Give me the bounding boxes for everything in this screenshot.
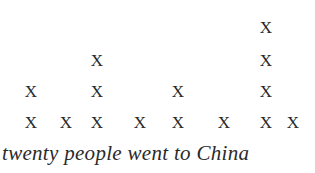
dot-plot: XXXXXXXXXXXXXXX <box>0 0 315 140</box>
x-mark: X <box>172 114 184 131</box>
x-mark: X <box>260 19 272 36</box>
chart-caption: twenty people went to China <box>2 141 249 166</box>
x-mark: X <box>287 114 299 131</box>
x-mark: X <box>91 114 103 131</box>
x-mark: X <box>25 83 37 100</box>
x-mark: X <box>91 52 103 69</box>
x-mark: X <box>260 114 272 131</box>
x-mark: X <box>172 83 184 100</box>
x-mark: X <box>218 114 230 131</box>
x-mark: X <box>91 83 103 100</box>
x-mark: X <box>25 114 37 131</box>
x-mark: X <box>260 52 272 69</box>
x-mark: X <box>134 114 146 131</box>
x-mark: X <box>260 83 272 100</box>
x-mark: X <box>60 114 72 131</box>
